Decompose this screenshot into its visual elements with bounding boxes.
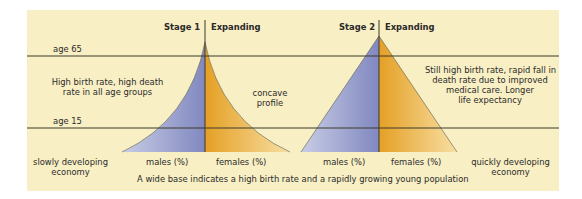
stage1-profile-line1: concave: [240, 88, 300, 99]
stage1-type-label: Expanding: [211, 22, 261, 33]
stage2-label: Stage 2: [339, 22, 375, 33]
stage2-females-label: females (%): [391, 157, 441, 168]
stage1-males-label: males (%): [146, 157, 188, 168]
stage2-economy-line2: economy: [468, 167, 553, 178]
stage1-economy-line2: economy: [33, 167, 108, 178]
stage2-note-line4: life expectancy: [425, 95, 555, 106]
stage2-males-label: males (%): [323, 157, 365, 168]
stage2-note-line1: Still high birth rate, rapid fall in: [425, 65, 555, 76]
stage2-note-line3: medical care. Longer: [425, 85, 555, 96]
stage1-note-line1: High birth rate, high death: [40, 77, 175, 88]
stage1-profile-line2: profile: [240, 98, 300, 109]
age-15-label: age 15: [53, 116, 82, 127]
stage1-females-label: females (%): [216, 157, 266, 168]
stage2-type-label: Expanding: [385, 22, 435, 33]
caption: A wide base indicates a high birth rate …: [137, 174, 469, 185]
stage1-economy-line1: slowly developing: [33, 157, 108, 168]
stage2-economy-line1: quickly developing: [468, 157, 553, 168]
age-65-label: age 65: [53, 44, 82, 55]
stage1-label: Stage 1: [164, 22, 200, 33]
stage2-note-line2: death rate due to improved: [425, 75, 555, 86]
stage1-note-line2: rate in all age groups: [40, 87, 175, 98]
